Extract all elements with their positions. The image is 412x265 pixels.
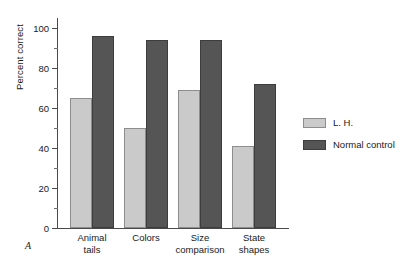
legend-swatch — [303, 118, 326, 128]
plot-area: 020406080100 AnimaltailsColorsSizecompar… — [57, 18, 289, 229]
y-tick-minor — [54, 88, 58, 89]
y-tick-label: 20 — [38, 184, 49, 193]
y-axis-line — [57, 18, 58, 229]
y-tick-mark — [52, 188, 58, 189]
legend-swatch — [303, 140, 326, 150]
panel-letter: A — [25, 240, 31, 251]
bar — [146, 40, 168, 228]
category-label: Stateshapes — [210, 232, 298, 255]
y-tick-label: 40 — [38, 144, 49, 153]
bar — [254, 84, 276, 228]
bar-group — [70, 18, 114, 228]
chart-legend: L. H.Normal control — [303, 115, 408, 159]
bar-group — [178, 18, 222, 228]
legend-label: L. H. — [333, 118, 353, 128]
y-tick-label: 60 — [38, 104, 49, 113]
y-tick-label: 100 — [33, 24, 49, 33]
legend-label: Normal control — [333, 140, 395, 150]
legend-item: L. H. — [303, 115, 408, 131]
category-label-line: shapes — [210, 244, 298, 256]
y-tick-minor — [54, 48, 58, 49]
bar — [92, 36, 114, 228]
category-label-line: State — [210, 232, 298, 244]
bar-chart-figure: Percent correct 020406080100 Animaltails… — [0, 0, 412, 265]
bar — [70, 98, 92, 228]
y-tick-minor — [54, 128, 58, 129]
bar — [124, 128, 146, 228]
y-tick-mark — [52, 68, 58, 69]
bar — [200, 40, 222, 228]
y-tick-mark — [52, 148, 58, 149]
y-tick-label: 80 — [38, 64, 49, 73]
bar-group — [124, 18, 168, 228]
bar — [232, 146, 254, 228]
y-tick-mark — [52, 108, 58, 109]
x-axis-line — [57, 228, 289, 229]
y-tick-minor — [54, 168, 58, 169]
y-tick-mark — [52, 228, 58, 229]
y-tick-minor — [54, 208, 58, 209]
bar — [178, 90, 200, 228]
legend-item: Normal control — [303, 137, 408, 153]
y-axis-title: Percent correct — [14, 0, 28, 90]
category-label-line: tails — [48, 244, 136, 256]
bar-group — [232, 18, 276, 228]
y-tick-mark — [52, 28, 58, 29]
